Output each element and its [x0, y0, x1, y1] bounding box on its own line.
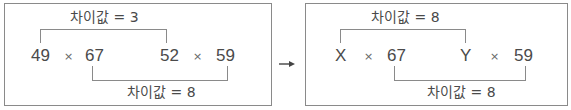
left-times-2: ×: [193, 51, 202, 62]
right-bottom-bracket-h: [394, 80, 526, 81]
right-top-difference-label: 차이값 = 8: [371, 10, 440, 24]
right-term-1: X: [335, 47, 346, 64]
left-term-2: 67: [85, 47, 104, 64]
right-term-2: 67: [387, 47, 406, 64]
right-bottom-bracket-l: [394, 66, 395, 80]
right-top-bracket-h: [340, 29, 466, 30]
left-term-4: 59: [216, 47, 235, 64]
left-bottom-bracket-l: [92, 66, 93, 80]
left-term-3: 52: [160, 47, 179, 64]
right-term-3: Y: [460, 47, 471, 64]
left-bottom-bracket-h: [92, 80, 228, 81]
left-top-difference-label: 차이값 = 3: [70, 10, 139, 24]
left-times-1: ×: [64, 51, 73, 62]
right-bottom-difference-label: 차이값 = 8: [427, 85, 496, 99]
right-top-bracket-l: [340, 29, 341, 43]
left-bottom-bracket-r: [227, 66, 228, 80]
right-times-1: ×: [364, 51, 373, 62]
left-top-bracket-r: [166, 29, 167, 43]
right-bottom-bracket-r: [525, 66, 526, 80]
right-term-4: 59: [514, 47, 533, 64]
right-times-2: ×: [490, 51, 499, 62]
left-term-1: 49: [31, 47, 50, 64]
left-top-bracket-l: [40, 29, 41, 43]
left-top-bracket-h: [40, 29, 167, 30]
left-bottom-difference-label: 차이값 = 8: [127, 85, 196, 99]
arrow-icon: [279, 53, 295, 72]
right-top-bracket-r: [465, 29, 466, 43]
